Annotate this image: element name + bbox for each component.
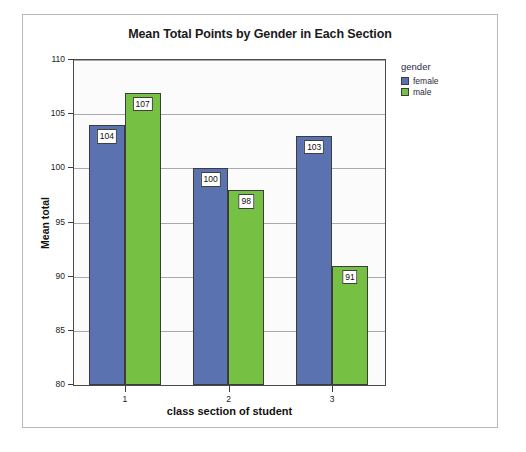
bar-2-male[interactable] [228,190,264,385]
y-axis-tick-label: 85 [56,325,65,335]
y-axis-tick-label: 105 [51,108,65,118]
legend-label-female: female [413,76,439,86]
bar-1-male[interactable] [125,93,161,386]
legend-swatch-female [401,77,409,85]
bar-label-1-female: 104 [97,129,117,144]
y-axis-tick-label: 80 [56,379,65,389]
chart-frame: Mean Total Points by Gender in Each Sect… [22,14,498,428]
y-axis: 80859095100105110 [23,59,73,386]
bar-1-female[interactable] [89,125,125,385]
gridline [74,60,385,61]
legend-item-male[interactable]: male [401,87,491,97]
y-axis-tick-label: 110 [51,54,65,64]
x-axis-tick [229,386,230,392]
bar-label-1-male: 107 [133,97,153,112]
legend-label-male: male [413,87,431,97]
y-axis-tick-label: 100 [51,162,65,172]
bar-label-2-female: 100 [200,172,220,187]
plot-inner: 1041071009810391 [74,60,385,385]
x-axis-title: class section of student [73,405,386,417]
x-axis-tick [332,386,333,392]
bar-2-female[interactable] [193,168,229,385]
chart-title: Mean Total Points by Gender in Each Sect… [23,27,497,41]
legend-title: gender [401,61,491,72]
legend-item-female[interactable]: female [401,76,491,86]
plot-area: 1041071009810391 [73,59,386,386]
bar-3-female[interactable] [296,136,332,385]
bar-label-3-female: 103 [304,140,324,155]
x-axis-tick-label: 3 [330,394,335,404]
y-axis-tick-label: 95 [56,217,65,227]
legend-swatch-male [401,88,409,96]
x-axis-tick [125,386,126,392]
x-axis-tick-label: 1 [122,394,127,404]
legend-entries: femalemale [401,76,491,97]
legend: gender femalemale [401,61,491,98]
gridline [74,114,385,115]
x-axis-tick-label: 2 [226,394,231,404]
y-axis-tick-label: 90 [56,271,65,281]
bar-label-2-male: 98 [239,194,254,209]
bar-label-3-male: 91 [342,270,357,285]
